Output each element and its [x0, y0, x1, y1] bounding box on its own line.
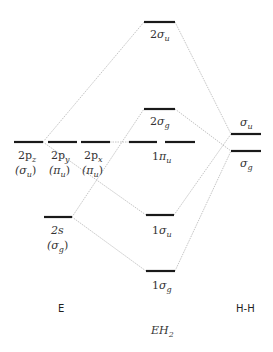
column-label-hh: H-H [236, 303, 255, 314]
connector-2pz-2su [43, 22, 144, 142]
label-2pz-sym: (σu) [15, 164, 36, 179]
correlation-lines [43, 22, 231, 271]
label-hh-sigma-g: σg [240, 157, 253, 172]
label-1sigma-u: 1σu [152, 224, 172, 239]
connector-hhsu-2su [175, 22, 231, 134]
diagram-title: EH2 [150, 324, 174, 339]
connector-2s-2sg [72, 109, 144, 217]
connector-hhsg-2sg [175, 109, 231, 151]
connector-hhsg-1sg [175, 151, 231, 271]
label-hh-sigma-u: σu [240, 116, 253, 131]
connector-2s-1sg [72, 217, 146, 271]
label-1pi-u: 1πu [152, 150, 171, 165]
label-2px: 2px [84, 149, 103, 164]
label-2sigma-u: 2σu [150, 28, 170, 43]
label-2pz: 2pz [18, 149, 37, 164]
label-2py-sym: (πu) [49, 164, 70, 179]
label-2sigma-g: 2σg [150, 115, 170, 130]
label-2s: 2s [50, 224, 64, 237]
connector-hhsu-1su [174, 134, 231, 215]
column-label-e: E [58, 303, 64, 314]
mo-diagram: 2σu 2σg 1πu 1σu 1σg 2pz (σu) 2py (πu) 2p… [0, 0, 273, 352]
hh-levels [231, 134, 261, 151]
label-2s-sym: (σg) [47, 239, 68, 254]
label-2px-sym: (πu) [82, 164, 103, 179]
label-2py: 2py [51, 149, 70, 164]
label-1sigma-g: 1σg [152, 279, 172, 294]
